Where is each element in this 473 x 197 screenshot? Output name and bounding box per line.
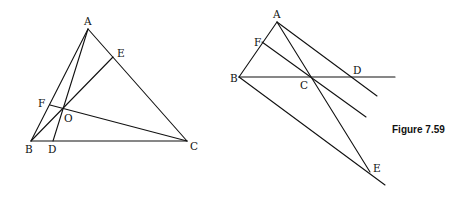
segment-AD: [53, 29, 88, 141]
label-D: D: [353, 64, 361, 76]
label-C: C: [190, 140, 198, 152]
label-E: E: [373, 162, 381, 174]
segment-AE: [277, 22, 370, 172]
label-A: A: [83, 15, 92, 27]
label-F: F: [254, 36, 261, 48]
label-E: E: [117, 47, 125, 59]
label-C: C: [300, 79, 308, 91]
label-B: B: [230, 72, 238, 84]
figure-caption: Figure 7.59: [392, 124, 445, 135]
label-A: A: [272, 8, 281, 20]
label-D: D: [48, 143, 56, 155]
label-F: F: [38, 97, 45, 109]
geometry-figures: A E F O B D C A F B C D E Figure 7.59: [0, 0, 473, 197]
label-O: O: [64, 112, 73, 124]
left-figure: A E F O B D C: [25, 15, 198, 155]
label-B: B: [25, 143, 33, 155]
segment-AB: [31, 29, 88, 141]
segment-CA: [88, 29, 187, 141]
segment-AB: [239, 22, 277, 77]
right-figure: A F B C D E: [230, 8, 395, 185]
segment-BE-extended: [239, 77, 385, 185]
segment-AD-extended: [277, 22, 377, 96]
